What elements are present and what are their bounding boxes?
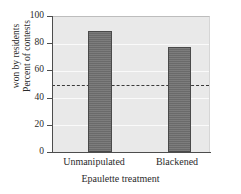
y-axis-title: Percent of contests won by residents xyxy=(8,0,36,116)
x-axis-title: Epaulette treatment xyxy=(0,173,241,185)
y-axis-line xyxy=(52,16,53,153)
y-axis-title-line1: Percent of contests xyxy=(22,20,34,92)
y-tick-80 xyxy=(47,43,52,44)
y-tick-0 xyxy=(47,152,52,153)
y-tick-60 xyxy=(47,70,52,71)
y-tick-40 xyxy=(47,98,52,99)
bar-blackened[interactable] xyxy=(168,47,191,152)
y-tick-20 xyxy=(47,125,52,126)
plot-area xyxy=(52,16,210,152)
figure-title-faint xyxy=(62,0,212,5)
y-tick-label-0: 0 xyxy=(4,147,44,157)
x-axis-line xyxy=(52,152,211,153)
x-category-label-unmanipulated: Unmanipulated xyxy=(48,156,140,168)
x-category-label-blackened: Blackened xyxy=(136,156,218,168)
y-axis-title-line2: won by residents xyxy=(11,24,23,88)
y-tick-100 xyxy=(47,16,52,17)
bar-chart-figure: 100 80 60 40 20 0 Percent of contests wo… xyxy=(0,0,241,194)
bar-unmanipulated[interactable] xyxy=(88,31,112,153)
y-tick-label-20: 20 xyxy=(4,120,44,130)
gridline-80 xyxy=(52,44,209,45)
